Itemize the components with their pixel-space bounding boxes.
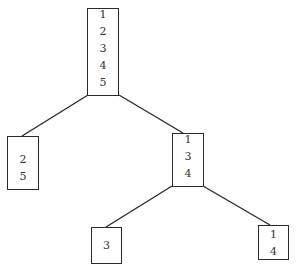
node-item: 4	[100, 57, 107, 74]
edge-right-to-right-left	[106, 186, 172, 227]
tree-node-right-right: 1 4	[258, 225, 289, 260]
node-item: 3	[103, 237, 110, 254]
node-item: 2	[20, 151, 27, 168]
node-item: 1	[100, 6, 107, 23]
tree-node-right-left: 3	[91, 227, 122, 264]
edge-right-to-right-right	[203, 186, 270, 225]
node-item: 4	[185, 165, 192, 182]
node-item: 3	[100, 40, 107, 57]
node-item: 2	[100, 23, 107, 40]
node-item: 5	[100, 74, 107, 91]
edge-root-to-right	[119, 95, 183, 133]
node-item: 3	[185, 148, 192, 165]
tree-node-root: 1 2 3 4 5	[87, 8, 119, 96]
node-item: 1	[185, 131, 192, 148]
node-item: 4	[270, 243, 277, 260]
tree-edges	[0, 0, 297, 273]
tree-diagram: 1 2 3 4 5 2 5 1 3 4 3 1 4	[0, 0, 297, 273]
node-item: 5	[20, 168, 27, 185]
node-item: 1	[270, 226, 277, 243]
tree-node-left: 2 5	[7, 136, 39, 190]
tree-node-right: 1 3 4	[172, 133, 204, 187]
edge-root-to-left	[22, 95, 88, 136]
